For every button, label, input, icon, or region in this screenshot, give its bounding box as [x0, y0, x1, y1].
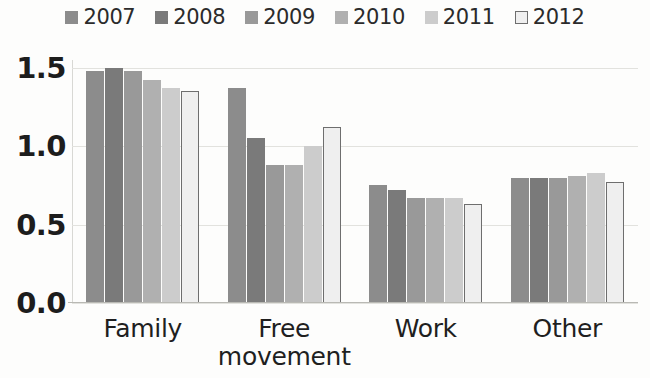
x-axis-category-labels: FamilyFreemovementWorkOther	[72, 315, 638, 377]
y-axis-tick-labels: 0.00.51.01.5	[0, 60, 66, 310]
x-category-label-line: Family	[72, 315, 214, 343]
x-axis-baseline	[68, 302, 638, 303]
x-category-label-line: movement	[214, 343, 356, 371]
bar-other-2011[interactable]	[587, 173, 605, 303]
bar-group-free-movement	[214, 60, 356, 303]
y-tick-label-1.5: 1.5	[4, 54, 66, 83]
bar-work-2008[interactable]	[388, 190, 406, 303]
bar-family-2011[interactable]	[162, 88, 180, 303]
plot-area	[72, 60, 638, 310]
bar-family-2008[interactable]	[105, 68, 123, 303]
bar-work-2007[interactable]	[369, 185, 387, 303]
x-category-label-line: Other	[497, 315, 639, 343]
bar-other-2008[interactable]	[530, 178, 548, 303]
bar-group-work	[355, 60, 497, 303]
legend-swatch-2008	[155, 11, 168, 24]
legend-swatch-2012	[515, 11, 528, 24]
bar-free-movement-2009[interactable]	[266, 165, 284, 303]
y-tick-label-0.0: 0.0	[4, 289, 66, 318]
legend-item-2008[interactable]: 2008	[155, 7, 225, 28]
bar-other-2009[interactable]	[549, 178, 567, 303]
legend-item-2011[interactable]: 2011	[425, 7, 495, 28]
bar-chart-figure: 200720082009201020112012 0.00.51.01.5 Fa…	[0, 0, 650, 378]
legend-label-2008: 2008	[173, 7, 225, 28]
x-category-label-line: Work	[355, 315, 497, 343]
legend-item-2009[interactable]: 2009	[245, 7, 315, 28]
legend-item-2012[interactable]: 2012	[515, 7, 585, 28]
legend-label-2009: 2009	[263, 7, 315, 28]
legend-swatch-2011	[425, 11, 438, 24]
legend-swatch-2009	[245, 11, 258, 24]
x-category-label-line: Free	[214, 315, 356, 343]
bar-group-other	[497, 60, 639, 303]
legend-label-2007: 2007	[83, 7, 135, 28]
x-category-label-family: Family	[72, 315, 214, 377]
legend-label-2012: 2012	[533, 7, 585, 28]
bar-other-2012[interactable]	[606, 182, 624, 303]
gridline-0.0	[72, 303, 638, 304]
legend-item-2007[interactable]: 2007	[65, 7, 135, 28]
bar-free-movement-2010[interactable]	[285, 165, 303, 303]
y-tick-label-0.5: 0.5	[4, 211, 66, 240]
bar-group-family	[72, 60, 214, 303]
bar-family-2012[interactable]	[181, 91, 199, 303]
bar-family-2010[interactable]	[143, 80, 161, 303]
legend-item-2010[interactable]: 2010	[335, 7, 405, 28]
bar-free-movement-2011[interactable]	[304, 146, 322, 303]
bar-groups	[72, 60, 638, 303]
bar-other-2010[interactable]	[568, 176, 586, 303]
bar-work-2009[interactable]	[407, 198, 425, 303]
bar-other-2007[interactable]	[511, 178, 529, 303]
bar-family-2009[interactable]	[124, 71, 142, 303]
chart-legend: 200720082009201020112012	[0, 4, 650, 30]
x-category-label-other: Other	[497, 315, 639, 377]
legend-label-2010: 2010	[353, 7, 405, 28]
bar-free-movement-2012[interactable]	[323, 127, 341, 303]
legend-label-2011: 2011	[443, 7, 495, 28]
bar-work-2012[interactable]	[464, 204, 482, 303]
bar-free-movement-2007[interactable]	[228, 88, 246, 303]
x-category-label-work: Work	[355, 315, 497, 377]
legend-swatch-2007	[65, 11, 78, 24]
bar-free-movement-2008[interactable]	[247, 138, 265, 303]
bar-family-2007[interactable]	[86, 71, 104, 303]
legend-swatch-2010	[335, 11, 348, 24]
bar-work-2011[interactable]	[445, 198, 463, 303]
x-category-label-free-movement: Freemovement	[214, 315, 356, 377]
bar-work-2010[interactable]	[426, 198, 444, 303]
y-tick-label-1.0: 1.0	[4, 132, 66, 161]
